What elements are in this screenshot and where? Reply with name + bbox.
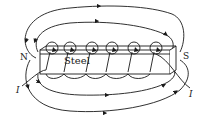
- current-label-left: I: [16, 86, 20, 95]
- current-label-right: I: [189, 90, 193, 99]
- electromagnet-diagram: Steel N S I I: [0, 0, 209, 119]
- steel-core-label: Steel: [64, 56, 90, 66]
- south-pole-label: S: [183, 52, 189, 61]
- field-line-top-inner: [36, 22, 173, 52]
- field-and-coil-drawing: [0, 0, 209, 119]
- north-pole-label: N: [20, 53, 28, 62]
